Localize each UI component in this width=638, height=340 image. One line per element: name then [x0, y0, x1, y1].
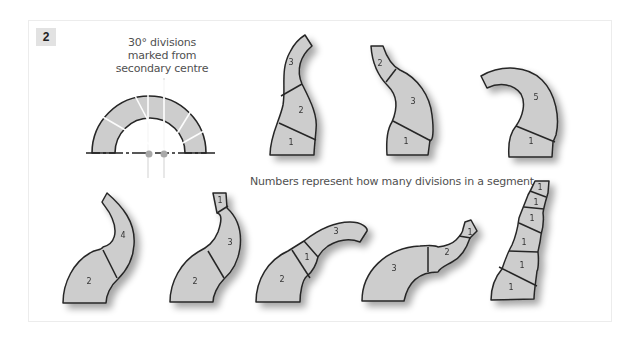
- diagram-canvas: 3 2 1 2 3 1 5 1 4 2 1 3 2 3 1: [0, 0, 638, 340]
- curve-shape-top-3: 5 1: [481, 68, 557, 157]
- segment-count: 1: [519, 261, 524, 270]
- segment-count: 3: [333, 227, 338, 236]
- segment-count: 1: [537, 183, 542, 192]
- segment-count: 2: [279, 275, 284, 284]
- curve-shape-bottom-1: 4 2: [63, 193, 134, 303]
- curve-shape-bottom-2: 1 3 2: [170, 193, 240, 302]
- segment-count: 1: [217, 196, 222, 205]
- segment-count: 1: [508, 283, 513, 292]
- segment-count: 1: [304, 253, 309, 262]
- segment-count: 1: [403, 137, 408, 146]
- construction-semicircle: [86, 78, 216, 178]
- segment-count: 4: [120, 231, 125, 240]
- segment-count: 1: [528, 137, 533, 146]
- segment-count: 2: [298, 106, 303, 115]
- segment-count: 3: [227, 238, 232, 247]
- curve-shape-bottom-4: 1 2 3: [362, 220, 477, 301]
- segment-count: 2: [377, 59, 382, 68]
- curve-shape-top-2: 2 3 1: [371, 46, 433, 155]
- segment-count: 1: [533, 198, 538, 207]
- centre-dot-secondary: [161, 151, 168, 158]
- segment-count: 2: [444, 248, 449, 257]
- curve-shape-top-1: 3 2 1: [270, 35, 316, 155]
- segment-count: 1: [288, 138, 293, 147]
- segment-count: 2: [192, 277, 197, 286]
- segment-count: 3: [410, 97, 415, 106]
- segment-count: 2: [86, 277, 91, 286]
- segment-count: 1: [467, 228, 472, 237]
- segment-count: 1: [521, 238, 526, 247]
- segment-count: 3: [391, 264, 396, 273]
- curve-shape-bottom-3: 3 1 2: [256, 222, 367, 302]
- segment-count: 5: [533, 93, 538, 102]
- centre-dot-primary: [146, 151, 153, 158]
- segment-count: 1: [529, 214, 534, 223]
- curve-shape-bottom-5: 1 1 1 1 1 1: [491, 181, 549, 300]
- segment-count: 3: [288, 58, 293, 67]
